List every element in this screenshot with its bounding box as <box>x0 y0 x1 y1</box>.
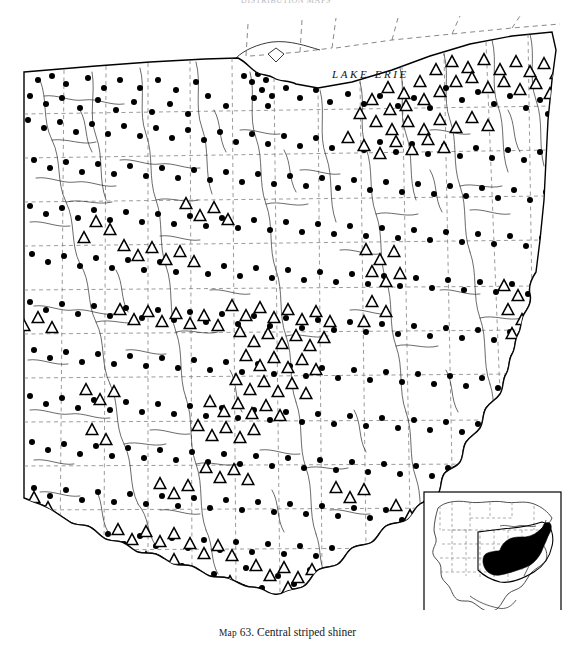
dot-record <box>329 145 335 151</box>
dot-record <box>253 453 259 459</box>
dot-record <box>283 315 289 321</box>
dot-record <box>413 463 419 469</box>
dot-record <box>285 455 291 461</box>
dot-record <box>139 409 145 415</box>
dot-record <box>491 337 497 343</box>
dot-record <box>553 293 559 299</box>
dot-record <box>171 411 177 417</box>
dot-record <box>111 499 117 505</box>
dot-record <box>269 463 275 469</box>
dot-record <box>239 179 245 185</box>
dot-record <box>475 467 481 473</box>
dot-record <box>489 477 495 483</box>
dot-record <box>377 93 383 99</box>
dot-record <box>431 381 437 387</box>
dot-record <box>551 341 557 347</box>
dot-record <box>117 77 123 83</box>
dot-record <box>537 97 543 103</box>
dot-record <box>443 229 449 235</box>
dot-record <box>43 401 49 407</box>
dot-record <box>367 515 373 521</box>
dot-record <box>393 149 399 155</box>
dot-record <box>351 367 357 373</box>
dot-record <box>509 281 515 287</box>
dot-record <box>333 279 339 285</box>
dot-record <box>489 155 495 161</box>
dot-record <box>73 129 79 135</box>
dot-record <box>367 377 373 383</box>
dot-record <box>239 507 245 513</box>
dot-record <box>159 493 165 499</box>
dot-record <box>281 133 287 139</box>
dot-record <box>251 95 257 101</box>
dot-record <box>303 511 309 517</box>
running-head: DISTRIBUTION MAPS <box>186 0 386 5</box>
triangle-record <box>296 592 308 603</box>
dot-record <box>113 107 119 113</box>
dot-record <box>363 329 369 335</box>
dot-record <box>491 241 497 247</box>
dot-record <box>31 347 37 353</box>
dot-record <box>459 239 465 245</box>
dot-record <box>411 227 417 233</box>
dot-record <box>117 565 123 571</box>
dot-record <box>303 373 309 379</box>
dot-record <box>35 77 41 83</box>
dot-record <box>185 111 191 117</box>
north-america-range-inset <box>424 492 561 610</box>
dot-record <box>205 271 211 277</box>
dot-record <box>553 159 559 165</box>
dot-record <box>175 503 181 509</box>
dot-record <box>397 471 403 477</box>
dot-record <box>155 77 161 83</box>
dot-record <box>381 461 387 467</box>
dot-record <box>201 137 207 143</box>
dot-record <box>47 493 53 499</box>
dot-record <box>271 509 277 515</box>
dot-record <box>79 359 85 365</box>
dot-record <box>141 455 147 461</box>
dot-record <box>283 409 289 415</box>
dot-record <box>171 221 177 227</box>
dot-record <box>505 423 511 429</box>
dot-record <box>95 97 101 103</box>
dot-record <box>427 333 433 339</box>
dot-record <box>271 371 277 377</box>
dot-record <box>461 287 467 293</box>
dot-record <box>395 425 401 431</box>
dot-record <box>317 457 323 463</box>
dot-record <box>345 91 351 97</box>
dot-record <box>427 427 433 433</box>
dot-record <box>47 165 53 171</box>
dot-record <box>429 473 435 479</box>
dot-record <box>59 395 65 401</box>
dot-record <box>57 535 63 541</box>
dot-record <box>143 173 149 179</box>
dot-record <box>511 377 517 383</box>
lake-erie-label: LAKE ERIE <box>331 68 409 80</box>
dot-record <box>127 353 133 359</box>
dot-record <box>557 103 563 109</box>
dot-record <box>461 475 467 481</box>
dot-record <box>175 175 181 181</box>
dot-record <box>45 447 51 453</box>
dot-record <box>153 125 159 131</box>
triangle-record <box>320 574 332 585</box>
dot-record <box>223 497 229 503</box>
dot-record <box>265 141 271 147</box>
dot-record <box>475 231 481 237</box>
dot-record <box>269 93 275 99</box>
dot-record <box>155 211 161 217</box>
dot-record <box>527 197 533 203</box>
dot-record <box>383 507 389 513</box>
dot-record <box>241 73 247 79</box>
dot-record <box>299 419 305 425</box>
dot-record <box>335 375 341 381</box>
dot-record <box>539 379 545 385</box>
dot-record <box>187 213 193 219</box>
dot-record <box>387 589 393 595</box>
dot-record <box>49 73 55 79</box>
dot-record <box>523 105 529 111</box>
dot-record <box>79 169 85 175</box>
dot-record <box>45 259 51 265</box>
